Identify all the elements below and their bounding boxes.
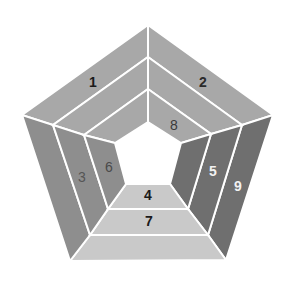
label-7: 7 [145,213,153,229]
label-1: 1 [89,74,97,90]
label-5: 5 [209,163,217,179]
outer-ring-bottom [70,235,226,261]
label-8: 8 [170,117,178,133]
label-4: 4 [144,187,152,203]
label-6: 6 [105,159,113,175]
pentagon-diagram: 1 2 3 4 5 6 7 8 9 [0,0,292,283]
label-9: 9 [234,178,242,194]
label-3: 3 [78,169,86,185]
label-2: 2 [199,74,207,90]
